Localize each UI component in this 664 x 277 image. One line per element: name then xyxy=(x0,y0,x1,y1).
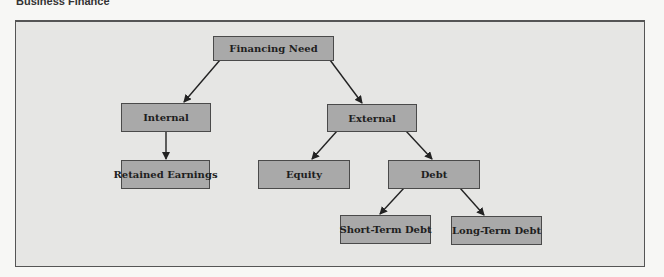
node-external: External xyxy=(327,104,417,132)
node-equity: Equity xyxy=(258,160,350,189)
node-label: Debt xyxy=(421,169,448,180)
arrow-external-to-debt xyxy=(406,131,432,159)
node-label: Financing Need xyxy=(229,43,317,54)
arrow-debt-to-longterm xyxy=(460,188,484,215)
node-label: Long-Term Debt xyxy=(452,225,541,236)
arrow-external-to-equity xyxy=(312,131,337,159)
node-short-term-debt: Short-Term Debt xyxy=(340,215,431,244)
node-retained-earnings: Retained Earnings xyxy=(121,160,210,189)
node-long-term-debt: Long-Term Debt xyxy=(451,216,542,245)
node-label: Internal xyxy=(143,112,189,123)
arrow-financing-to-internal xyxy=(184,60,220,102)
arrow-debt-to-shortterm xyxy=(380,188,404,214)
node-label: Retained Earnings xyxy=(114,169,218,180)
node-debt: Debt xyxy=(388,160,480,189)
arrow-financing-to-external xyxy=(330,60,362,103)
node-label: Equity xyxy=(286,169,322,180)
node-financing-need: Financing Need xyxy=(213,36,334,61)
node-label: External xyxy=(348,113,395,124)
node-internal: Internal xyxy=(121,103,211,132)
node-label: Short-Term Debt xyxy=(339,224,431,235)
